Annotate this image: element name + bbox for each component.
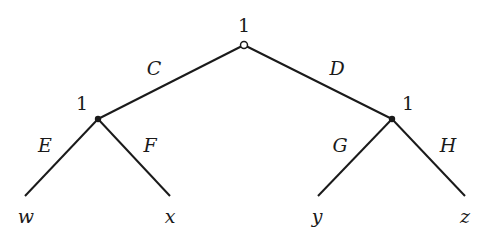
game-tree: 1 1 1 C D E F G H w x y z	[0, 0, 494, 244]
action-label-e: E	[37, 134, 52, 156]
edge-c	[98, 45, 244, 119]
edge-e	[25, 119, 98, 196]
leaf-label-x: x	[165, 205, 176, 227]
leaf-label-w: w	[18, 205, 34, 227]
root-node	[241, 42, 248, 49]
root-player-label: 1	[238, 14, 250, 36]
right-player-label: 1	[402, 92, 414, 114]
left-node	[95, 116, 101, 122]
edge-d	[244, 45, 392, 119]
edge-h	[392, 119, 465, 196]
action-label-c: C	[147, 57, 162, 79]
edge-f	[98, 119, 170, 196]
action-label-d: D	[328, 57, 344, 79]
action-label-f: F	[142, 134, 157, 156]
leaf-label-y: y	[311, 205, 323, 227]
right-node	[389, 116, 395, 122]
leaf-label-z: z	[459, 205, 471, 227]
action-label-g: G	[332, 134, 347, 156]
action-label-h: H	[439, 134, 457, 156]
edge-g	[318, 119, 392, 196]
left-player-label: 1	[76, 92, 88, 114]
